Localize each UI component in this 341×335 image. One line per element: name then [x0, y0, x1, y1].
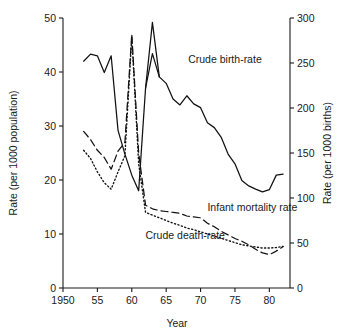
x-tick-label: 1950: [51, 294, 75, 306]
y2-tick-label: 0: [297, 282, 303, 294]
y-tick-label: 50: [44, 12, 56, 24]
y2-tick-label: 300: [297, 12, 315, 24]
y2-tick-label: 250: [297, 57, 315, 69]
series-label-crude-birth-rate: Crude birth-rate: [188, 53, 262, 65]
right-axis-title: Rate (per 1000 births): [321, 102, 333, 204]
chart-figure: 01020304050 050100150200250300 195055606…: [0, 0, 341, 335]
y2-tick-label: 50: [297, 237, 309, 249]
x-tick-label: 70: [195, 294, 207, 306]
y2-tick-label: 150: [297, 147, 315, 159]
x-axis-title: Year: [166, 317, 188, 329]
y-tick-label: 0: [50, 282, 56, 294]
y-tick-label: 40: [44, 66, 56, 78]
x-tick-label: 80: [264, 294, 276, 306]
series-label-infant-mortality-rate: Infant mortality rate: [207, 201, 297, 213]
x-tick-label: 55: [92, 294, 104, 306]
series-label-crude-death-rate: Crude death-rate: [146, 229, 226, 241]
x-tick-label: 65: [160, 294, 172, 306]
y-tick-label: 10: [44, 228, 56, 240]
y-tick-label: 20: [44, 174, 56, 186]
line-chart-canvas: 01020304050 050100150200250300 195055606…: [0, 0, 341, 335]
y2-tick-label: 100: [297, 192, 315, 204]
y-tick-label: 30: [44, 120, 56, 132]
y2-tick-label: 200: [297, 102, 315, 114]
x-tick-label: 75: [229, 294, 241, 306]
left-axis-title: Rate (per 1000 population): [7, 91, 19, 216]
x-tick-label: 60: [126, 294, 138, 306]
